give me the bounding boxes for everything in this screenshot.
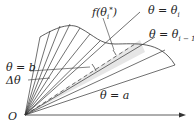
label-origin: O <box>8 110 17 123</box>
theta-star-arc <box>113 50 116 55</box>
label-theta-b: θ = b <box>6 61 36 74</box>
f-leader-line <box>103 18 114 50</box>
label-delta-theta: Δθ <box>5 74 21 87</box>
label-f-theta-star: f(θi*) <box>91 6 117 21</box>
label-theta-i-minus-1: θ = θi − 1 <box>149 28 194 43</box>
delta-theta-arc <box>92 64 96 71</box>
label-theta-a: θ = a <box>100 89 129 102</box>
polar-sector-diagram: f(θi*) θ = θi θ = θi − 1 θ = b Δθ θ = a … <box>0 0 194 133</box>
mid-ray-dashed <box>25 44 135 115</box>
axis-arrow-icon <box>179 113 186 118</box>
label-theta-i: θ = θi <box>148 4 180 19</box>
